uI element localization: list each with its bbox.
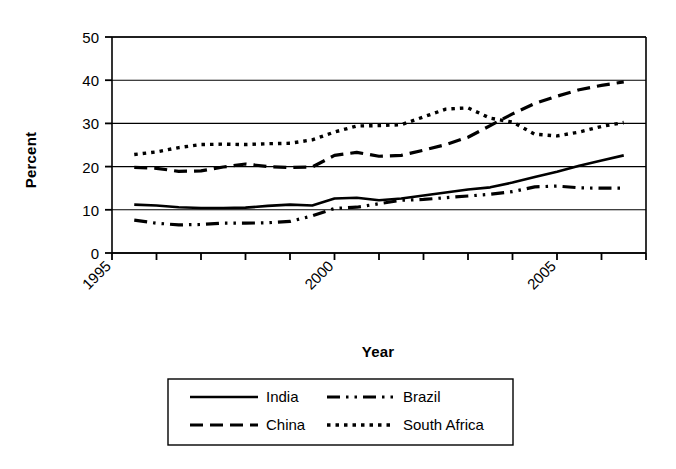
chart-figure: 01020304050 199520002005 Percent Year In… bbox=[0, 0, 676, 469]
data-series-layer bbox=[134, 82, 624, 225]
legend-label-india: India bbox=[266, 388, 299, 405]
x-axis-title: Year bbox=[362, 343, 395, 360]
series-line-south-africa bbox=[134, 108, 624, 155]
x-tick-label: 2000 bbox=[301, 257, 337, 293]
x-tick-label: 1995 bbox=[79, 257, 115, 293]
y-axis-tick-labels: 01020304050 bbox=[82, 29, 99, 262]
x-tick-label: 2005 bbox=[524, 257, 560, 293]
y-tick-label: 20 bbox=[82, 159, 99, 176]
y-tick-label: 50 bbox=[82, 29, 99, 46]
line-chart: 01020304050 199520002005 Percent Year In… bbox=[0, 0, 676, 469]
series-line-brazil bbox=[134, 186, 624, 225]
y-tick-label: 40 bbox=[82, 72, 99, 89]
y-axis-ticks bbox=[105, 37, 112, 253]
gridlines bbox=[112, 37, 646, 253]
y-tick-label: 30 bbox=[82, 115, 99, 132]
y-tick-label: 10 bbox=[82, 202, 99, 219]
x-axis-tick-labels: 199520002005 bbox=[79, 257, 560, 293]
chart-legend: IndiaBrazilChinaSouth Africa bbox=[168, 379, 513, 445]
legend-label-brazil: Brazil bbox=[403, 388, 441, 405]
legend-label-china: China bbox=[266, 416, 306, 433]
y-tick-label: 0 bbox=[91, 245, 99, 262]
legend-box bbox=[168, 379, 513, 445]
series-line-india bbox=[134, 155, 624, 208]
legend-label-south-africa: South Africa bbox=[403, 416, 485, 433]
y-axis-title: Percent bbox=[22, 132, 39, 188]
plot-frame bbox=[112, 37, 646, 253]
x-axis-ticks bbox=[112, 253, 646, 260]
